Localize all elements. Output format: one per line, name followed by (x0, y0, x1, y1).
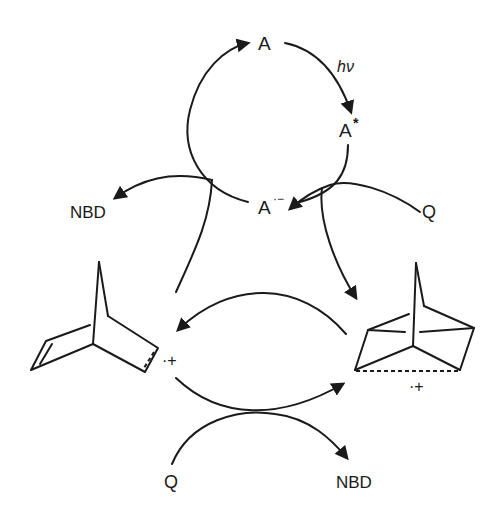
arrow-a-to-a-excited (285, 43, 351, 112)
arrow-q-to-nbd-bottom (172, 413, 347, 464)
label-a-radical-anion: A (258, 197, 271, 218)
reaction-cycle-diagram: A hν A * A ·− NBD Q ·+ ·+ Q NBD (0, 0, 502, 512)
quadricyclane-radical-cation-structure (355, 263, 474, 371)
nbd-radical-cation-charge: ·+ (162, 352, 177, 369)
label-a-excited: A (339, 120, 352, 141)
label-nbd-bottom: NBD (336, 473, 372, 492)
norbornadiene-radical-cation-structure (31, 262, 158, 372)
label-q-bottom: Q (164, 472, 178, 492)
label-hv: hν (337, 58, 354, 75)
label-a: A (258, 33, 271, 54)
arrow-a-radical-anion-to-a (187, 43, 248, 202)
arrow-a-excited-to-a-radical-anion (300, 145, 348, 202)
label-a-excited-star: * (353, 115, 359, 131)
arrow-to-quadricyclane-radical-cation (321, 188, 356, 298)
label-a-radical-anion-charge: ·− (273, 192, 284, 206)
arrow-nbd-radical-cation-to-q-radical-cation (176, 378, 343, 410)
label-q-top: Q (422, 202, 436, 222)
line-nbd-radical-cation-to-cycle (176, 180, 212, 292)
arrow-q-to-a-radical-anion (290, 183, 420, 212)
q-radical-cation-charge: ·+ (409, 378, 424, 395)
arrow-q-radical-cation-to-nbd-radical-cation (178, 293, 346, 334)
label-nbd-top: NBD (70, 203, 106, 222)
sensitizer-cycle (187, 43, 351, 202)
arrow-to-nbd-top (115, 176, 212, 198)
